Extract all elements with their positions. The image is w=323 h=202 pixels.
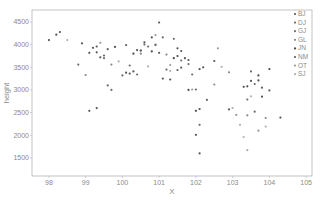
data-point <box>232 107 234 109</box>
data-point <box>125 72 127 74</box>
legend-marker-icon <box>294 22 296 24</box>
data-point <box>136 49 138 51</box>
data-point <box>199 152 201 154</box>
data-point <box>173 38 175 40</box>
data-point <box>107 48 109 50</box>
data-point <box>121 74 123 76</box>
data-point <box>103 57 105 59</box>
legend-label: GL <box>298 36 307 43</box>
data-point <box>228 108 230 110</box>
scatter-chart: 1500200025003000350040004500 98991001011… <box>0 0 323 202</box>
data-point <box>77 64 79 66</box>
data-point <box>261 87 263 89</box>
data-point <box>165 69 167 71</box>
data-point <box>154 34 156 36</box>
data-point <box>107 84 109 86</box>
data-point <box>180 50 182 52</box>
legend-label: OT <box>298 62 307 69</box>
legend-marker-icon <box>294 47 296 49</box>
data-point <box>199 108 201 110</box>
x-axis-ticks: 9899100101102103104105 <box>45 176 312 186</box>
data-point <box>158 21 160 23</box>
data-point <box>99 42 101 44</box>
y-tick-label: 2500 <box>13 109 29 116</box>
legend-label: GJ <box>298 27 306 34</box>
data-point <box>99 56 101 58</box>
data-point <box>187 89 189 91</box>
data-point <box>92 47 94 49</box>
data-point <box>169 70 171 72</box>
data-point <box>169 78 171 80</box>
x-tick-label: 100 <box>117 179 129 186</box>
data-point <box>147 65 149 67</box>
legend-label: SJ <box>298 70 306 77</box>
data-point <box>103 54 105 56</box>
data-point <box>243 86 245 88</box>
legend-marker-icon <box>294 65 296 67</box>
data-point <box>213 60 215 62</box>
data-point <box>246 149 248 151</box>
y-tick-label: 4500 <box>13 18 29 25</box>
y-tick-label: 2000 <box>13 132 29 139</box>
y-axis-ticks: 1500200025003000350040004500 <box>13 18 32 161</box>
data-point <box>206 99 208 101</box>
data-point <box>257 79 259 81</box>
data-point <box>180 59 182 61</box>
data-point <box>254 111 256 113</box>
legend-label: DJ <box>298 19 306 26</box>
x-tick-label: 99 <box>82 179 90 186</box>
data-point <box>151 50 153 52</box>
data-point <box>257 74 259 76</box>
data-point <box>147 45 149 47</box>
data-point <box>199 68 201 70</box>
x-axis-title: X <box>169 187 174 196</box>
y-tick-label: 3000 <box>13 86 29 93</box>
data-point <box>246 98 248 100</box>
data-point <box>176 47 178 49</box>
data-point <box>265 126 267 128</box>
data-point <box>96 45 98 47</box>
data-point <box>81 42 83 44</box>
y-tick-label: 4000 <box>13 41 29 48</box>
data-point <box>59 31 61 33</box>
legend-label: JN <box>298 44 306 51</box>
data-point <box>125 44 127 46</box>
data-point <box>268 68 270 70</box>
data-point <box>279 117 281 119</box>
data-point <box>129 64 131 66</box>
legend-marker-icon <box>294 73 296 75</box>
data-point <box>246 114 248 116</box>
data-point <box>180 67 182 69</box>
data-point <box>243 136 245 138</box>
legend-marker-icon <box>294 30 296 32</box>
legend-marker-icon <box>294 13 296 15</box>
data-point <box>250 70 252 72</box>
x-tick-label: 101 <box>153 179 165 186</box>
data-point <box>191 73 193 75</box>
data-point <box>143 41 145 43</box>
y-tick-label: 3500 <box>13 64 29 71</box>
data-point <box>48 39 50 41</box>
data-point <box>132 70 134 72</box>
data-point <box>158 52 160 54</box>
data-point <box>228 71 230 73</box>
data-point <box>246 85 248 87</box>
data-point <box>132 53 134 55</box>
data-point <box>265 117 267 119</box>
data-point <box>187 63 189 65</box>
data-point <box>129 73 131 75</box>
data-point <box>110 64 112 66</box>
data-point <box>221 66 223 68</box>
data-point <box>173 57 175 59</box>
data-point <box>96 51 98 53</box>
legend-label: NM <box>298 53 308 60</box>
data-point <box>261 96 263 98</box>
data-point <box>88 52 90 54</box>
x-tick-label: 98 <box>45 179 53 186</box>
data-point <box>162 36 164 38</box>
data-point <box>151 36 153 38</box>
data-point <box>162 78 164 80</box>
data-point <box>85 74 87 76</box>
data-point <box>114 46 116 48</box>
legend-marker-icon <box>294 56 296 58</box>
